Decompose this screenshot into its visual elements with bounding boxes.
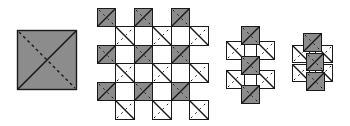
white-tile — [153, 64, 172, 83]
gray-tile — [242, 27, 260, 45]
diagram-canvas — [0, 0, 350, 126]
gray-tile — [135, 83, 153, 101]
white-tile — [116, 101, 135, 120]
gray-tile — [307, 54, 324, 71]
gray-tile — [172, 46, 190, 64]
gray-tile — [135, 9, 153, 27]
gray-tile — [18, 31, 77, 90]
white-tile — [190, 101, 209, 120]
gray-tile — [172, 9, 190, 27]
gray-tile — [98, 9, 116, 27]
gray-tile — [304, 34, 322, 52]
figure-single-large-tile — [18, 31, 77, 90]
white-tile — [116, 64, 135, 83]
white-tile — [153, 101, 172, 120]
white-tile — [190, 27, 209, 46]
white-tile — [190, 64, 209, 83]
gray-tile — [307, 73, 325, 91]
tiling-diagram — [0, 0, 350, 126]
figure-checker-grid — [98, 9, 209, 120]
gray-tile — [98, 83, 116, 101]
figure-column-cluster-compact — [293, 34, 333, 91]
figure-column-cluster-medium — [227, 27, 275, 104]
gray-tile — [172, 83, 190, 101]
gray-tile — [135, 46, 153, 64]
white-tile — [116, 27, 135, 46]
white-tile — [153, 27, 172, 46]
gray-tile — [242, 86, 260, 104]
gray-tile — [98, 46, 116, 64]
gray-tile — [242, 57, 260, 75]
